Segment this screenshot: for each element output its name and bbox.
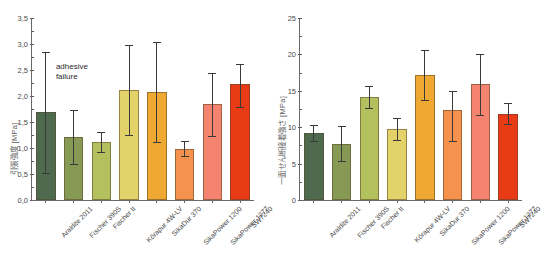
- error-bar: [129, 45, 130, 135]
- error-cap-lower: [236, 107, 244, 108]
- error-cap-lower: [421, 100, 429, 101]
- bar: [304, 133, 323, 200]
- error-cap-upper: [310, 125, 318, 126]
- error-cap-lower: [338, 161, 346, 162]
- error-cap-upper: [208, 73, 216, 74]
- y-tick-label: 15: [272, 86, 296, 95]
- annotation-adhesive-failure: adhesive failure: [56, 62, 88, 82]
- error-cap-upper: [338, 126, 346, 127]
- error-cap-upper: [365, 86, 373, 87]
- y-tick-label: 10: [272, 123, 296, 132]
- error-bar: [508, 103, 509, 124]
- error-cap-upper: [97, 132, 105, 133]
- error-cap-lower: [181, 156, 189, 157]
- y-tick-label: 0,5: [4, 170, 28, 179]
- y-tick-label: 2,5: [4, 66, 28, 75]
- error-cap-upper: [449, 91, 457, 92]
- error-bar: [73, 110, 74, 164]
- x-axis-line: [299, 200, 522, 201]
- error-cap-upper: [504, 103, 512, 104]
- y-tick-label: 20: [272, 50, 296, 59]
- error-bar: [341, 126, 342, 161]
- error-cap-lower: [393, 140, 401, 141]
- error-bar: [184, 141, 185, 156]
- y-tick-label: 3,0: [4, 40, 28, 49]
- error-bar: [212, 73, 213, 135]
- error-cap-upper: [70, 110, 78, 111]
- error-cap-lower: [449, 141, 457, 142]
- error-bar: [101, 132, 102, 152]
- error-bar: [480, 54, 481, 115]
- error-bar: [397, 118, 398, 139]
- error-bar: [452, 91, 453, 141]
- error-cap-lower: [125, 135, 133, 136]
- error-cap-lower: [208, 136, 216, 137]
- chart-panel-shear: 一面せん断接着強さ [MPa] 0510152025 Araldite 2011…: [268, 0, 536, 266]
- y-tick-label: 2,0: [4, 92, 28, 101]
- plot-area-left: Araldite 2011Fischer 390SFischer IIKörap…: [32, 18, 254, 200]
- error-cap-upper: [42, 52, 50, 53]
- y-tick-label: 1,5: [4, 118, 28, 127]
- y-tick-label: 25: [272, 14, 296, 23]
- error-cap-lower: [504, 124, 512, 125]
- error-cap-lower: [97, 152, 105, 153]
- error-cap-upper: [125, 45, 133, 46]
- error-cap-lower: [310, 141, 318, 142]
- bar: [498, 114, 517, 200]
- error-cap-upper: [153, 42, 161, 43]
- x-axis-line: [31, 200, 254, 201]
- y-tick-label: 1,0: [4, 144, 28, 153]
- error-cap-lower: [476, 115, 484, 116]
- error-cap-lower: [365, 108, 373, 109]
- y-tick-label: 0: [272, 196, 296, 205]
- y-axis-line: [299, 18, 300, 200]
- error-cap-upper: [421, 50, 429, 51]
- error-cap-upper: [393, 118, 401, 119]
- y-axis-ticks-left: 0,00,51,01,52,02,53,03,5: [2, 0, 28, 266]
- plot-area-right: Araldite 2011Fischer 390SFischer IIKörap…: [300, 18, 522, 200]
- error-bar: [240, 64, 241, 108]
- bar: [360, 97, 379, 200]
- error-cap-upper: [236, 64, 244, 65]
- y-axis-ticks-right: 0510152025: [270, 0, 296, 266]
- error-cap-upper: [476, 54, 484, 55]
- chart-panel-tensile: 引張強度 [MPa] 0,00,51,01,52,02,53,03,5 Aral…: [0, 0, 268, 266]
- y-axis-line: [31, 18, 32, 200]
- error-bar: [424, 50, 425, 100]
- error-bar: [156, 42, 157, 141]
- error-cap-lower: [42, 173, 50, 174]
- error-cap-lower: [70, 164, 78, 165]
- error-cap-upper: [181, 141, 189, 142]
- error-bar: [313, 125, 314, 141]
- error-bar: [45, 52, 46, 173]
- y-tick-label: 3,5: [4, 14, 28, 23]
- y-tick-label: 5: [272, 159, 296, 168]
- error-cap-lower: [153, 142, 161, 143]
- error-bar: [369, 86, 370, 109]
- y-tick-label: 0,0: [4, 196, 28, 205]
